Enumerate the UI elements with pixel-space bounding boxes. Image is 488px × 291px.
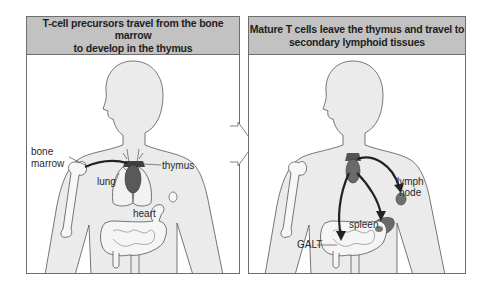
panel-header: T-cell precursors travel from the bone m… xyxy=(27,17,239,55)
title-line-2: to develop in the thymus xyxy=(74,42,193,54)
panel-title: T-cell precursors travel from the bone m… xyxy=(27,17,239,55)
body-diagram-right: lymph node spleen GALT xyxy=(249,55,466,274)
body-diagram-left: bone marrow lung thymus heart xyxy=(27,55,240,274)
label-lung: lung xyxy=(97,176,116,187)
panel-title: Mature T cells leave the thymus and trav… xyxy=(250,23,465,48)
title-line-1: Mature T cells leave the thymus and trav… xyxy=(250,23,465,35)
panel-header: Mature T cells leave the thymus and trav… xyxy=(249,17,465,55)
label-bone: bone xyxy=(31,146,54,157)
panel-thymus-development: T-cell precursors travel from the bone m… xyxy=(26,16,240,274)
title-line-2: secondary lymphoid tissues xyxy=(289,36,425,48)
label-galt: GALT xyxy=(297,239,322,250)
panel-t-cell-distribution: Mature T cells leave the thymus and trav… xyxy=(248,16,466,274)
label-marrow: marrow xyxy=(31,158,65,169)
label-spleen: spleen xyxy=(349,219,378,230)
label-heart: heart xyxy=(133,208,156,219)
heart-icon xyxy=(346,159,360,183)
label-node: node xyxy=(399,187,422,198)
title-line-1: T-cell precursors travel from the bone m… xyxy=(43,17,224,42)
label-lymph: lymph xyxy=(397,176,424,187)
label-thymus: thymus xyxy=(162,160,194,171)
heart-icon xyxy=(125,165,141,193)
